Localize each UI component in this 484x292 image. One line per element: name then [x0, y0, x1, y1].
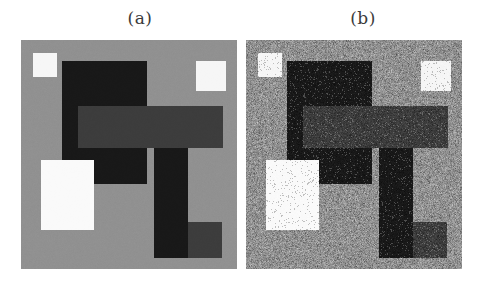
region-white-square-top-left	[258, 53, 282, 77]
region-dark-gray-bar-horizontal	[303, 106, 448, 148]
region-white-rect-large-left	[266, 160, 319, 230]
region-black-bar-vertical-right	[154, 148, 188, 258]
region-white-rect-large-left	[41, 160, 94, 230]
panel-a-clean-image	[21, 40, 237, 269]
panel-b-noisy-image	[246, 40, 462, 269]
region-white-square-top-right	[421, 61, 451, 91]
region-white-square-top-left	[33, 53, 57, 77]
region-white-square-top-right	[196, 61, 226, 91]
region-black-bar-vertical-right	[379, 148, 413, 258]
panel-label-a: (a)	[110, 8, 170, 28]
figure-image-pair: (a) (b)	[0, 0, 484, 292]
panel-label-b: (b)	[333, 8, 393, 28]
region-dark-gray-square-bottom	[188, 222, 222, 258]
region-dark-gray-bar-horizontal	[78, 106, 223, 148]
region-dark-gray-square-bottom	[413, 222, 447, 258]
